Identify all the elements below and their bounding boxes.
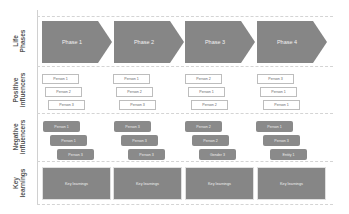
negative-influencer-3-3: Gender 3	[199, 149, 236, 160]
divider-top	[37, 16, 333, 17]
row-label-life-phases: Life Phases	[2, 16, 36, 66]
row-label-positive-influencers: Positive influencers	[2, 66, 36, 113]
divider-phases-positive	[37, 66, 333, 67]
divider-bottom	[37, 204, 333, 205]
negative-influencer-2-2: Person 3	[121, 135, 158, 146]
negative-influencer-3-2: Person 2	[192, 135, 229, 146]
divider-positive-negative	[37, 113, 333, 114]
positive-influencer-3-3: Person 2	[191, 100, 228, 110]
positive-influencer-4-3: Person 1	[263, 100, 300, 110]
key-learnings-box-3: Key learnings	[185, 167, 254, 200]
positive-influencer-3-2: Person 1	[188, 87, 225, 97]
negative-influencer-4-1: Person 1	[256, 121, 293, 132]
positive-influencer-1-2: Person 2	[45, 87, 82, 97]
row-label-separator	[37, 10, 38, 205]
positive-influencer-2-2: Person 2	[116, 87, 153, 97]
phase-arrow-3: Phase 3	[185, 21, 255, 63]
row-label-key-learnings: Key learnings	[2, 161, 36, 205]
positive-influencer-1-1: Person 1	[42, 74, 79, 84]
phase-arrow-2: Phase 2	[114, 21, 184, 63]
positive-influencer-3-1: Person 2	[185, 74, 222, 84]
negative-influencer-1-1: Person 1	[43, 121, 80, 132]
row-label-negative-influencers: Negative influencers	[2, 113, 36, 161]
negative-influencer-3-1: Person 2	[185, 121, 222, 132]
key-learnings-box-4: Key learnings	[257, 167, 326, 200]
negative-influencer-4-2: Person 3	[263, 135, 300, 146]
negative-influencer-4-3: Entity 1	[270, 149, 307, 160]
positive-influencer-2-3: Person 3	[119, 100, 156, 110]
positive-influencer-4-1: Person 3	[257, 74, 294, 84]
phase-arrow-1: Phase 1	[42, 21, 112, 63]
life-phases-diagram: Life Phases Positive influencers Negativ…	[0, 0, 349, 214]
negative-influencer-1-2: Person 1	[50, 135, 87, 146]
phase-arrow-4: Phase 4	[257, 21, 327, 63]
key-learnings-box-2: Key learnings	[113, 167, 182, 200]
negative-influencer-2-1: Person 3	[114, 121, 151, 132]
key-learnings-box-1: Key learnings	[42, 167, 111, 200]
positive-influencer-1-3: Person 3	[48, 100, 85, 110]
positive-influencer-2-1: Person 1	[113, 74, 150, 84]
positive-influencer-4-2: Person 1	[260, 87, 297, 97]
negative-influencer-1-3: Person 3	[57, 149, 94, 160]
divider-negative-learnings	[37, 161, 333, 162]
negative-influencer-2-3: Person 3	[128, 149, 165, 160]
